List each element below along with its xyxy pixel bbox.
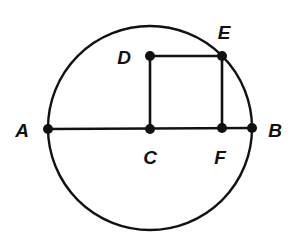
point-e <box>217 51 227 61</box>
label-f: F <box>214 147 227 168</box>
label-b: B <box>268 120 282 141</box>
geometry-diagram: A B C F D E <box>0 0 298 241</box>
label-a: A <box>14 120 29 141</box>
point-a <box>43 124 53 134</box>
point-b <box>247 123 257 133</box>
point-c <box>145 124 155 134</box>
label-c: C <box>143 147 157 168</box>
label-d: D <box>117 47 131 68</box>
label-e: E <box>218 22 232 43</box>
point-d <box>145 51 155 61</box>
point-f <box>217 123 227 133</box>
